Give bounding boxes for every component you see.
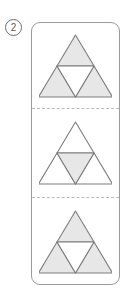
top-sub-triangle (57, 211, 94, 242)
triangle-panel[interactable] (32, 23, 119, 108)
triangle-figure-3 (39, 209, 112, 275)
panel-stack (31, 22, 120, 285)
top-sub-triangle (57, 122, 94, 153)
triangle-figure-1 (39, 33, 112, 99)
circled-number-icon: 2 (5, 19, 22, 36)
figure-canvas: 2 (0, 0, 127, 303)
item-label-text: 2 (11, 23, 17, 33)
triangle-figure-2 (39, 120, 112, 186)
triangle-panel[interactable] (32, 197, 119, 285)
triangle-panel[interactable] (32, 108, 119, 197)
top-sub-triangle (57, 35, 94, 66)
